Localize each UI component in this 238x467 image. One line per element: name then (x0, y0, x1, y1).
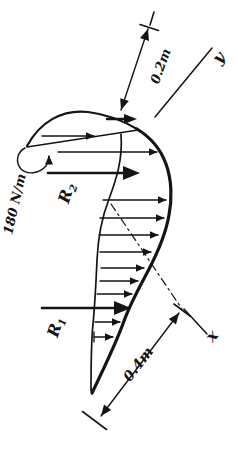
dim-0-2m (120, 12, 158, 110)
resultant-r1-arrow (42, 301, 131, 315)
load-arrow-head (124, 114, 137, 124)
statics-load-diagram: R2 R1 180 N/m x y 0.2m 0.4m (0, 0, 238, 467)
figure-canvas: R2 R1 180 N/m x y 0.2m 0.4m (0, 0, 238, 467)
r1-label: R1 (43, 314, 69, 340)
centerline (111, 204, 182, 309)
x-axis-label: x (201, 326, 223, 347)
resultant-r2-arrow (48, 166, 140, 180)
leader-arrow (18, 148, 49, 173)
load-intensity-label: 180 N/m (0, 172, 29, 236)
dim-0-4m-label: 0.4m (120, 344, 157, 385)
r2-label: R2 (54, 180, 80, 206)
curved-vane-surface (92, 129, 171, 393)
dim-0-2m-label: 0.2m (147, 47, 174, 86)
